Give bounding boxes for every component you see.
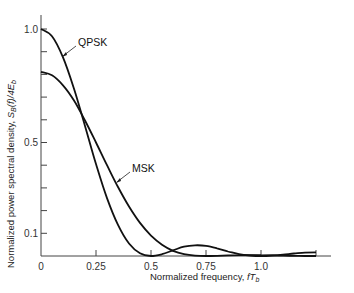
msk-label: MSK <box>132 162 155 174</box>
y-tick-label: 0.5 <box>24 137 38 148</box>
qpsk-label: QPSK <box>78 36 107 48</box>
y-tick-label: 0.1 <box>24 228 38 239</box>
x-axis-title: Normalized frequency, fTb <box>150 271 259 283</box>
curves <box>41 29 316 256</box>
x-axis-title-sub: b <box>255 276 259 283</box>
msk-curve <box>41 72 316 256</box>
psd-chart: 00.250.50.751.00.10.51.0 QPSK MSK Normal… <box>0 0 354 293</box>
axis-ticks: 00.250.50.751.00.10.51.0 <box>24 24 316 273</box>
x-tick-label: 0 <box>38 261 44 272</box>
qpsk-arrowhead-icon <box>62 52 67 57</box>
x-tick-label: 0.25 <box>86 261 106 272</box>
y-axis-title-sub2: b <box>10 80 17 84</box>
y-axis-title-rest: (f)/4E <box>5 83 16 107</box>
msk-annotation: MSK <box>116 162 155 183</box>
x-tick-label: 1.0 <box>254 261 268 272</box>
y-tick-label: 1.0 <box>24 24 38 35</box>
y-axis-title-text: Normalized power spectral density, <box>5 118 16 268</box>
y-axis-title: Normalized power spectral density, SB(f)… <box>5 80 17 268</box>
qpsk-curve <box>41 29 316 256</box>
x-axis-title-text: Normalized frequency, <box>150 271 247 282</box>
qpsk-annotation: QPSK <box>62 36 107 57</box>
msk-arrowhead-icon <box>116 178 121 183</box>
axes <box>41 15 331 256</box>
